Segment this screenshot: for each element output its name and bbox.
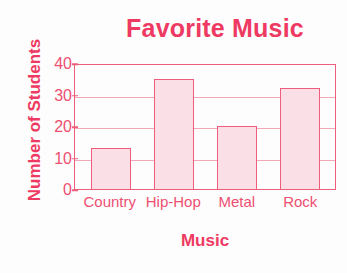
- y-tick-label-20: 20: [42, 118, 72, 136]
- chart-title: Favorite Music: [104, 14, 326, 43]
- x-tick-label-rock: Rock: [283, 193, 317, 210]
- x-tick-label-metal: Metal: [218, 193, 255, 210]
- bar-hip-hop: [154, 79, 194, 189]
- x-axis-title: Music: [70, 231, 340, 251]
- bar-country: [91, 148, 131, 189]
- bar-chart: Favorite Music Number of Students 010203…: [0, 0, 347, 273]
- y-tick-label-40: 40: [42, 55, 72, 73]
- x-tick-label-country: Country: [83, 193, 136, 210]
- bar-series: [75, 65, 335, 189]
- y-tick-label-0: 0: [42, 181, 72, 199]
- plot-area: [74, 64, 336, 190]
- y-tick-label-10: 10: [42, 150, 72, 168]
- bar-metal: [217, 126, 257, 189]
- y-tick-label-30: 30: [42, 87, 72, 105]
- x-tick-label-hip-hop: Hip-Hop: [146, 193, 201, 210]
- y-axis: 010203040: [38, 64, 72, 190]
- bar-rock: [280, 88, 320, 189]
